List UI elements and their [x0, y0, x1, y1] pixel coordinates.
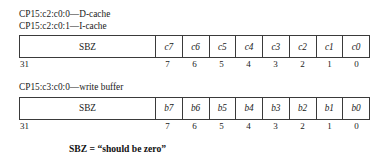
bit-number: 0: [343, 120, 370, 133]
bit-cell: b7: [155, 98, 182, 119]
register-caption-d-cache: CP15:c2:c0:0—D-cache: [19, 9, 370, 21]
bit-cell: b0: [342, 98, 369, 119]
bit-cell: b3: [262, 98, 289, 119]
bit-cell: c3: [262, 36, 289, 57]
sbz-field-write-buffer: SBZ: [20, 98, 155, 119]
bit-number: 2: [289, 58, 316, 71]
bit-cell: c7: [155, 36, 182, 57]
bit-number: 1: [316, 58, 343, 71]
bit-number: 6: [181, 120, 208, 133]
bit-cell: c6: [182, 36, 209, 57]
bit-cell: b2: [289, 98, 316, 119]
bit-number-group-cache: 7 6 5 4 3 2 1 0: [154, 58, 370, 71]
bit-number-row-write-buffer: 31 7 6 5 4 3 2 1 0: [19, 120, 370, 133]
register-box-write-buffer: SBZ b7 b6 b5 b4 b3 b2 b1 b0: [19, 97, 370, 120]
register-block-write-buffer: CP15:c3:c0:0—write buffer SBZ b7 b6 b5 b…: [19, 82, 370, 133]
register-diagram-figure: CP15:c2:c0:0—D-cache CP15:c2:c0:1—I-cach…: [0, 0, 388, 166]
register-caption-i-cache: CP15:c2:c0:1—I-cache: [19, 21, 370, 33]
bit-cell: c2: [289, 36, 316, 57]
bit-number: 5: [208, 120, 235, 133]
register-box-cache: SBZ c7 c6 c5 c4 c3 c2 c1 c0: [19, 35, 370, 58]
bit-cell-group-cache: c7 c6 c5 c4 c3 c2 c1 c0: [155, 36, 369, 57]
bit-cell: b4: [235, 98, 262, 119]
bit-number: 3: [262, 58, 289, 71]
msb-label: 31: [19, 58, 154, 71]
bit-number-row-cache: 31 7 6 5 4 3 2 1 0: [19, 58, 370, 71]
bit-number-group-write-buffer: 7 6 5 4 3 2 1 0: [154, 120, 370, 133]
bit-number: 5: [208, 58, 235, 71]
bit-number: 4: [235, 120, 262, 133]
bit-number: 3: [262, 120, 289, 133]
bit-cell: b1: [316, 98, 343, 119]
bit-cell-group-write-buffer: b7 b6 b5 b4 b3 b2 b1 b0: [155, 98, 369, 119]
bit-number: 7: [154, 58, 181, 71]
bit-cell: c4: [235, 36, 262, 57]
sbz-field-cache: SBZ: [20, 36, 155, 57]
bit-cell: c0: [342, 36, 369, 57]
bit-number: 2: [289, 120, 316, 133]
bit-cell: b5: [209, 98, 236, 119]
bit-cell: c1: [316, 36, 343, 57]
bit-number: 7: [154, 120, 181, 133]
bit-cell: c5: [209, 36, 236, 57]
bit-number: 0: [343, 58, 370, 71]
bit-cell: b6: [182, 98, 209, 119]
bit-number: 4: [235, 58, 262, 71]
bit-number: 6: [181, 58, 208, 71]
register-caption-write-buffer: CP15:c3:c0:0—write buffer: [19, 82, 370, 94]
register-caption-group: CP15:c3:c0:0—write buffer: [19, 82, 370, 94]
msb-label: 31: [19, 120, 154, 133]
register-caption-group: CP15:c2:c0:0—D-cache CP15:c2:c0:1—I-cach…: [19, 9, 370, 32]
bit-number: 1: [316, 120, 343, 133]
register-block-cache: CP15:c2:c0:0—D-cache CP15:c2:c0:1—I-cach…: [19, 9, 370, 71]
figure-note: SBZ = “should be zero”: [69, 143, 166, 154]
